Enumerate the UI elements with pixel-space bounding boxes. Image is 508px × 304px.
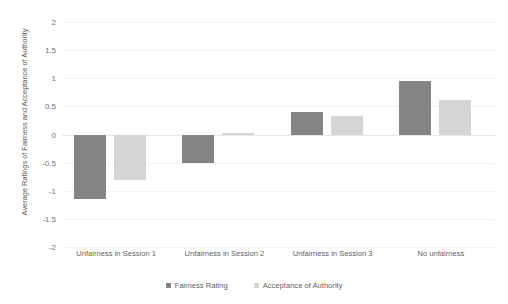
legend-swatch-icon	[254, 283, 259, 288]
bar-acceptance[interactable]	[222, 133, 254, 135]
legend-label: Acceptance of Authority	[263, 281, 343, 290]
x-axis-tick-label: Unfairness in Session 3	[279, 249, 387, 258]
legend-item[interactable]: Acceptance of Authority	[254, 281, 343, 290]
x-axis-tick-label: Unfairness in Session 2	[170, 249, 278, 258]
y-axis-tick-label: -0.5	[10, 158, 62, 167]
bars-layer	[62, 22, 495, 247]
bar-group	[279, 22, 387, 247]
y-axis-tick-label: 2	[10, 18, 62, 27]
bar-group	[170, 22, 278, 247]
x-axis-tick-label: Unfairness in Session 1	[62, 249, 170, 258]
bar-group	[387, 22, 495, 247]
chart-legend: Fairness RatingAcceptance of Authority	[0, 278, 508, 292]
x-axis-tick-label: No unfairness	[387, 249, 495, 258]
legend-item[interactable]: Fairness Rating	[166, 281, 228, 290]
y-axis-tick-label: -1	[10, 186, 62, 195]
bar-acceptance[interactable]	[439, 100, 471, 135]
bar-chart: Average Ratings of Fairness and Acceptan…	[0, 0, 508, 304]
y-axis-tick-label: 1.5	[10, 46, 62, 55]
bar-fairness[interactable]	[182, 135, 214, 163]
y-axis-tick-label: 1	[10, 74, 62, 83]
bar-fairness[interactable]	[74, 135, 106, 200]
legend-swatch-icon	[166, 283, 171, 288]
bar-fairness[interactable]	[399, 81, 431, 134]
legend-label: Fairness Rating	[175, 281, 228, 290]
x-axis-tick-labels: Unfairness in Session 1Unfairness in Ses…	[62, 249, 495, 265]
bar-acceptance[interactable]	[114, 135, 146, 180]
y-axis-tick-label: -1.5	[10, 214, 62, 223]
bar-group	[62, 22, 170, 247]
gridline	[62, 247, 495, 248]
y-axis-tick-label: 0	[10, 130, 62, 139]
bar-fairness[interactable]	[291, 112, 323, 135]
y-axis-tick-label: -2	[10, 243, 62, 252]
y-axis-tick-labels: 21.510.50-0.5-1-1.5-2	[0, 22, 62, 247]
bar-acceptance[interactable]	[331, 116, 363, 135]
y-axis-tick-label: 0.5	[10, 102, 62, 111]
